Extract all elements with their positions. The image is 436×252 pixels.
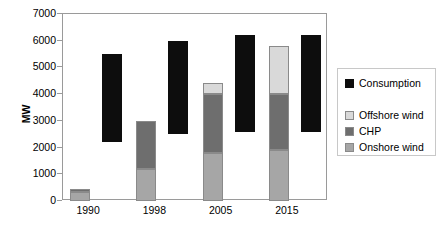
y-tick-label: 3000: [0, 115, 56, 125]
bar-chp: [269, 94, 289, 150]
plot-area: [62, 13, 327, 200]
legend-swatch-icon: [345, 79, 354, 88]
legend-label: CHP: [359, 126, 381, 137]
legend-label: Consumption: [359, 78, 421, 89]
bar-chp: [70, 189, 90, 192]
y-tick-label: 2000: [0, 142, 56, 152]
chart-container: MW 01000200030004000500060007000 1990199…: [0, 0, 436, 252]
legend-item[interactable]: CHP: [345, 125, 381, 137]
chart-legend: ConsumptionOffshore windCHPOnshore wind: [337, 68, 436, 156]
bar-consumption-range: [102, 54, 122, 142]
legend-swatch-icon: [345, 127, 354, 136]
legend-item[interactable]: Onshore wind: [345, 141, 424, 153]
bar-onshore-wind: [269, 150, 289, 201]
legend-item[interactable]: Consumption: [345, 77, 421, 89]
bar-consumption-range: [168, 41, 188, 135]
x-tick-label: 2005: [191, 204, 251, 216]
y-tick-label: 5000: [0, 61, 56, 71]
legend-label: Onshore wind: [359, 142, 424, 153]
bar-chp: [136, 121, 156, 169]
bar-onshore-wind: [70, 192, 90, 201]
y-tick-label: 7000: [0, 8, 56, 18]
y-tick-label: 0: [0, 195, 56, 205]
bar-offshore-wind: [203, 83, 223, 94]
y-tick-label: 4000: [0, 88, 56, 98]
x-tick-label: 2015: [257, 204, 317, 216]
bar-consumption-range: [235, 35, 255, 131]
bar-onshore-wind: [203, 153, 223, 201]
legend-swatch-icon: [345, 111, 354, 120]
y-tick-label: 1000: [0, 168, 56, 178]
x-tick-label: 1990: [58, 204, 118, 216]
y-tick-mark: [57, 200, 62, 201]
bar-offshore-wind: [269, 46, 289, 94]
legend-item[interactable]: Offshore wind: [345, 109, 424, 121]
y-tick-label: 6000: [0, 35, 56, 45]
bar-consumption-range: [301, 35, 321, 131]
legend-label: Offshore wind: [359, 110, 424, 121]
bar-chp: [203, 94, 223, 153]
legend-swatch-icon: [345, 143, 354, 152]
x-tick-label: 1998: [124, 204, 184, 216]
bar-onshore-wind: [136, 169, 156, 201]
